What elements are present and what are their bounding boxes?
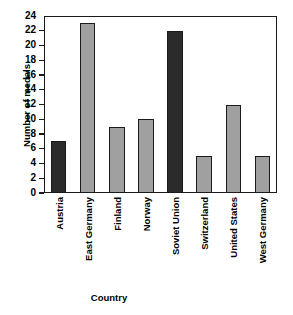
- x-axis-label: Austria: [53, 197, 64, 230]
- x-label-slot: United States: [219, 193, 248, 288]
- x-label-slot: West Germany: [248, 193, 277, 288]
- bar-chart: Number of medals 242220181614121086420 A…: [0, 0, 293, 315]
- x-axis-label: Soviet Union: [170, 197, 181, 255]
- bar: [196, 156, 212, 193]
- bar: [51, 141, 67, 193]
- bar: [167, 31, 183, 193]
- x-label-slot: Finland: [102, 193, 131, 288]
- y-tick-label: 10: [4, 113, 36, 124]
- y-tick-label: 18: [4, 54, 36, 65]
- y-tick-label: 14: [4, 83, 36, 94]
- y-tick-label: 12: [4, 98, 36, 109]
- x-axis-label: Switzerland: [199, 197, 210, 250]
- x-axis-title: Country: [44, 292, 174, 303]
- y-tick-label: 22: [4, 24, 36, 35]
- bar: [255, 156, 271, 193]
- y-tick-label: 16: [4, 69, 36, 80]
- y-tick-label: 0: [4, 187, 36, 198]
- y-tick-label: 2: [4, 172, 36, 183]
- bar: [226, 105, 242, 194]
- x-axis-label: Finland: [111, 197, 122, 231]
- x-label-slot: East Germany: [73, 193, 102, 288]
- bars-layer: [44, 16, 277, 193]
- y-tick-label: 8: [4, 128, 36, 139]
- y-tick-label: 6: [4, 142, 36, 153]
- y-tick-label: 24: [4, 10, 36, 21]
- y-axis-ticks: 242220181614121086420: [0, 16, 44, 193]
- x-label-slot: Norway: [131, 193, 160, 288]
- bar: [109, 127, 125, 193]
- x-axis-label: Norway: [140, 197, 151, 231]
- x-axis-label: East Germany: [82, 197, 93, 261]
- y-tick-label: 20: [4, 39, 36, 50]
- x-label-slot: Soviet Union: [161, 193, 190, 288]
- x-label-slot: Austria: [44, 193, 73, 288]
- bar: [80, 23, 96, 193]
- x-axis-label: United States: [228, 197, 239, 258]
- x-label-slot: Switzerland: [190, 193, 219, 288]
- y-tick-label: 4: [4, 157, 36, 168]
- bar: [138, 119, 154, 193]
- x-axis-label: West Germany: [257, 197, 268, 263]
- x-axis-category-labels: AustriaEast GermanyFinlandNorwaySoviet U…: [44, 193, 277, 288]
